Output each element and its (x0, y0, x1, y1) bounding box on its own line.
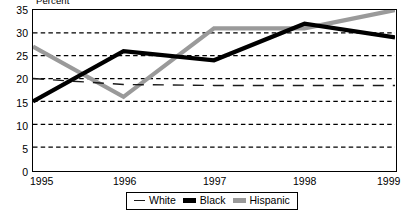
chart-svg (33, 10, 395, 170)
series-line-white (33, 79, 395, 86)
legend-item-white: White (134, 195, 176, 206)
x-tick-label-1997: 1997 (203, 176, 226, 187)
legend-item-hispanic: Hispanic (233, 195, 290, 206)
x-tick-label-1999: 1999 (377, 176, 400, 187)
y-tick-label-5: 5 (4, 144, 28, 154)
gridlines (33, 33, 395, 147)
x-tick-label-1998: 1998 (293, 176, 316, 187)
legend-swatch-white-line-icon (134, 200, 145, 201)
legend-swatch-black-line-icon (183, 198, 196, 203)
y-tick-label-35: 35 (4, 5, 28, 15)
legend-item-black: Black (183, 195, 226, 206)
legend-label-hispanic: Hispanic (250, 195, 290, 206)
y-tick-label-10: 10 (4, 121, 28, 131)
x-tick-label-1995: 1995 (30, 176, 53, 187)
legend-label-black: Black (200, 195, 226, 206)
legend-swatch-hispanic-line-icon (233, 198, 246, 203)
series-line-black (33, 24, 395, 102)
y-tick-label-20: 20 (4, 74, 28, 84)
x-tick-label-1996: 1996 (113, 176, 136, 187)
plot-area (32, 9, 397, 172)
y-axis-title: Percent (36, 0, 69, 6)
x-axis-tick-labels: 1995 1996 1997 1998 1999 (0, 176, 408, 192)
chart-container: Percent 35 30 25 20 15 10 5 0 1995 1996 … (0, 0, 408, 213)
chart-legend: White Black Hispanic (126, 192, 298, 210)
legend-label-white: White (149, 195, 176, 206)
y-tick-label-30: 30 (4, 28, 28, 38)
series-line-hispanic (33, 10, 395, 97)
y-tick-label-25: 25 (4, 51, 28, 61)
y-tick-label-15: 15 (4, 98, 28, 108)
